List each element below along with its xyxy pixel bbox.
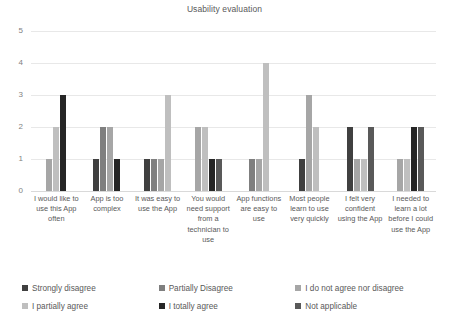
bar-group bbox=[31, 31, 82, 191]
legend-label: Strongly disagree bbox=[32, 284, 96, 293]
bar-group bbox=[82, 31, 133, 191]
bar[interactable] bbox=[397, 159, 403, 191]
bar[interactable] bbox=[53, 127, 59, 191]
usability-evaluation-chart: Usability evaluation 012345 I would like… bbox=[0, 0, 449, 321]
legend-swatch-icon bbox=[295, 285, 301, 291]
legend-swatch-icon bbox=[159, 285, 165, 291]
legend-item[interactable]: I partially agree bbox=[22, 297, 159, 315]
legend-label: I partially agree bbox=[32, 302, 88, 311]
grid-line bbox=[31, 191, 436, 192]
x-axis-tick-label: App functions are easy to use bbox=[234, 194, 285, 245]
legend-swatch-icon bbox=[295, 303, 301, 309]
y-axis-tick-label: 1 bbox=[19, 155, 23, 163]
y-axis-tick-label: 3 bbox=[19, 91, 23, 99]
bar[interactable] bbox=[313, 127, 319, 191]
bar[interactable] bbox=[202, 127, 208, 191]
legend-swatch-icon bbox=[22, 285, 28, 291]
legend-item[interactable]: Not applicable bbox=[295, 297, 432, 315]
legend-label: Partially Disagree bbox=[169, 284, 233, 293]
bar[interactable] bbox=[361, 159, 367, 191]
bar[interactable] bbox=[151, 159, 157, 191]
bar[interactable] bbox=[93, 159, 99, 191]
bar[interactable] bbox=[263, 63, 269, 191]
bar-group bbox=[234, 31, 285, 191]
x-axis-tick-label: I would like to use this App often bbox=[31, 194, 82, 245]
chart-legend: Strongly disagreePartially DisagreeI do … bbox=[22, 279, 432, 315]
bar[interactable] bbox=[411, 127, 417, 191]
legend-label: I do not agree nor disagree bbox=[305, 284, 403, 293]
bar[interactable] bbox=[354, 159, 360, 191]
bar[interactable] bbox=[306, 95, 312, 191]
bar-group bbox=[284, 31, 335, 191]
legend-item[interactable]: Partially Disagree bbox=[159, 279, 296, 297]
bar-groups bbox=[31, 31, 436, 191]
bar[interactable] bbox=[256, 159, 262, 191]
legend-item[interactable]: I totally agree bbox=[159, 297, 296, 315]
bar[interactable] bbox=[195, 127, 201, 191]
bar[interactable] bbox=[144, 159, 150, 191]
bar[interactable] bbox=[368, 127, 374, 191]
bar[interactable] bbox=[165, 95, 171, 191]
legend-label: Not applicable bbox=[305, 302, 357, 311]
bar-group bbox=[132, 31, 183, 191]
x-axis-tick-label: App is too complex bbox=[82, 194, 133, 245]
bar[interactable] bbox=[158, 159, 164, 191]
x-axis-tick-label: You would need support from a technician… bbox=[183, 194, 234, 245]
bar-group bbox=[183, 31, 234, 191]
plot-area bbox=[31, 31, 436, 191]
bar-group bbox=[335, 31, 386, 191]
legend-swatch-icon bbox=[159, 303, 165, 309]
y-axis-tick-label: 5 bbox=[19, 27, 23, 35]
chart-title: Usability evaluation bbox=[0, 4, 449, 14]
y-axis-tick-label: 2 bbox=[19, 123, 23, 131]
x-axis-tick-label: I needed to learn a lot before I could u… bbox=[385, 194, 436, 245]
legend-item[interactable]: Strongly disagree bbox=[22, 279, 159, 297]
bar-group bbox=[385, 31, 436, 191]
x-axis-tick-label: Most people learn to use very quickly bbox=[284, 194, 335, 245]
bar[interactable] bbox=[404, 159, 410, 191]
legend-label: I totally agree bbox=[169, 302, 218, 311]
bar[interactable] bbox=[209, 159, 215, 191]
bar[interactable] bbox=[100, 127, 106, 191]
bar[interactable] bbox=[60, 95, 66, 191]
y-axis-tick-label: 4 bbox=[19, 59, 23, 67]
x-axis-tick-label: I felt very confident using the App bbox=[335, 194, 386, 245]
y-axis: 012345 bbox=[0, 31, 28, 191]
bar[interactable] bbox=[347, 127, 353, 191]
y-axis-tick-label: 0 bbox=[19, 187, 23, 195]
bar[interactable] bbox=[107, 127, 113, 191]
legend-item[interactable]: I do not agree nor disagree bbox=[295, 279, 432, 297]
bar[interactable] bbox=[249, 159, 255, 191]
bar[interactable] bbox=[418, 127, 424, 191]
bar[interactable] bbox=[216, 159, 222, 191]
x-axis-tick-label: It was easy to use the App bbox=[132, 194, 183, 245]
bar[interactable] bbox=[46, 159, 52, 191]
legend-swatch-icon bbox=[22, 303, 28, 309]
bar[interactable] bbox=[299, 159, 305, 191]
bar[interactable] bbox=[114, 159, 120, 191]
x-axis-labels: I would like to use this App oftenApp is… bbox=[31, 194, 436, 245]
